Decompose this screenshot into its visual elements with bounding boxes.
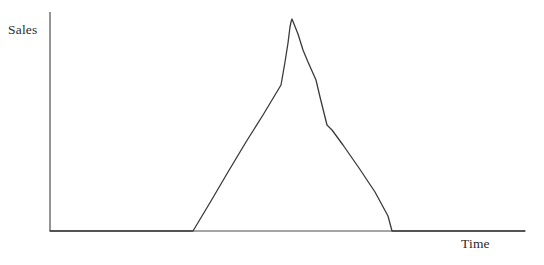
chart-figure: Sales Time: [0, 0, 544, 265]
chart-plot-area: [0, 0, 544, 265]
x-axis-label: Time: [461, 236, 490, 252]
sales-curve-line: [50, 19, 525, 231]
y-axis-label: Sales: [8, 22, 38, 38]
